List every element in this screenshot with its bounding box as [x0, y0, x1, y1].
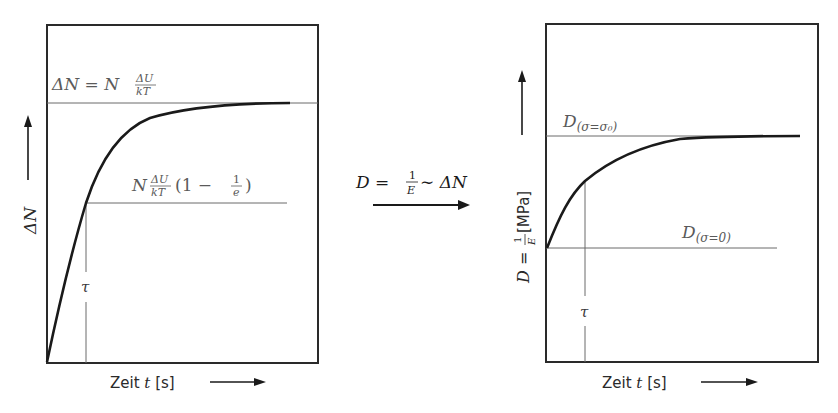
transition-frac-den: E: [406, 184, 415, 197]
right-y-axis-label: D =: [514, 252, 533, 284]
left-tau-level-frac-num: ΔU: [150, 173, 169, 186]
left-tau-level-lhs: N: [131, 175, 148, 195]
right-y-axis-unit: [MPa]: [515, 191, 533, 233]
left-asymptote-label: ΔN = N: [51, 74, 120, 94]
left-y-axis-label-group: ΔN: [20, 115, 40, 235]
transition-frac-num: 1: [409, 169, 416, 182]
right-x-axis-label-group: Zeit t [s]: [602, 374, 758, 392]
right-y-axis-frac-num: 1: [512, 237, 523, 243]
transition-rhs: ∼ ΔN: [420, 172, 468, 192]
left-saturation-curve: [47, 103, 290, 362]
left-tau-level-inner-den: e: [233, 186, 240, 199]
transition-arrow-head-icon: [458, 200, 470, 210]
asymptote-lhs: ΔN = N: [51, 74, 120, 94]
left-asymptote-frac-num: ΔU: [135, 72, 154, 85]
transition-lhs: D =: [355, 172, 389, 192]
left-tau-level-paren: (1 −: [175, 175, 212, 195]
right-x-axis-label: Zeit t [s]: [602, 374, 667, 392]
transition-relation: D = 1 E ∼ ΔN: [355, 169, 470, 210]
diagram-canvas: ΔN = N ΔU kT N ΔU kT (1 − 1 e ) τ ΔN Zei…: [0, 0, 838, 413]
right-upper-label: D(σ=σ₀): [562, 111, 618, 134]
right-x-axis-arrow-head-icon: [746, 378, 758, 386]
right-lower-label: D(σ=0): [681, 222, 731, 245]
left-x-axis-label: Zeit t [s]: [110, 374, 175, 392]
left-y-axis-label: ΔN: [20, 206, 40, 235]
left-asymptote-frac-den: kT: [136, 85, 152, 98]
left-x-axis-arrow-head-icon: [254, 378, 266, 386]
left-tau-level-frac-den: kT: [151, 186, 167, 199]
left-y-axis-arrow-head-icon: [24, 115, 32, 127]
right-y-axis-arrow-head-icon: [518, 70, 526, 82]
left-tau-level-inner-num: 1: [233, 173, 240, 186]
right-chart: D(σ=σ₀) D(σ=0) τ D = 1 E [MPa]: [512, 24, 818, 392]
right-y-axis-frac-den: E: [526, 237, 537, 246]
left-chart: ΔN = N ΔU kT N ΔU kT (1 − 1 e ) τ ΔN Zei…: [20, 25, 318, 392]
right-tau-label: τ: [580, 303, 589, 321]
left-x-axis-label-group: Zeit t [s]: [110, 374, 266, 392]
left-tau-label: τ: [81, 278, 90, 296]
right-y-axis-label-group: D = 1 E [MPa]: [512, 70, 537, 284]
left-tau-level-close: ): [245, 175, 252, 195]
